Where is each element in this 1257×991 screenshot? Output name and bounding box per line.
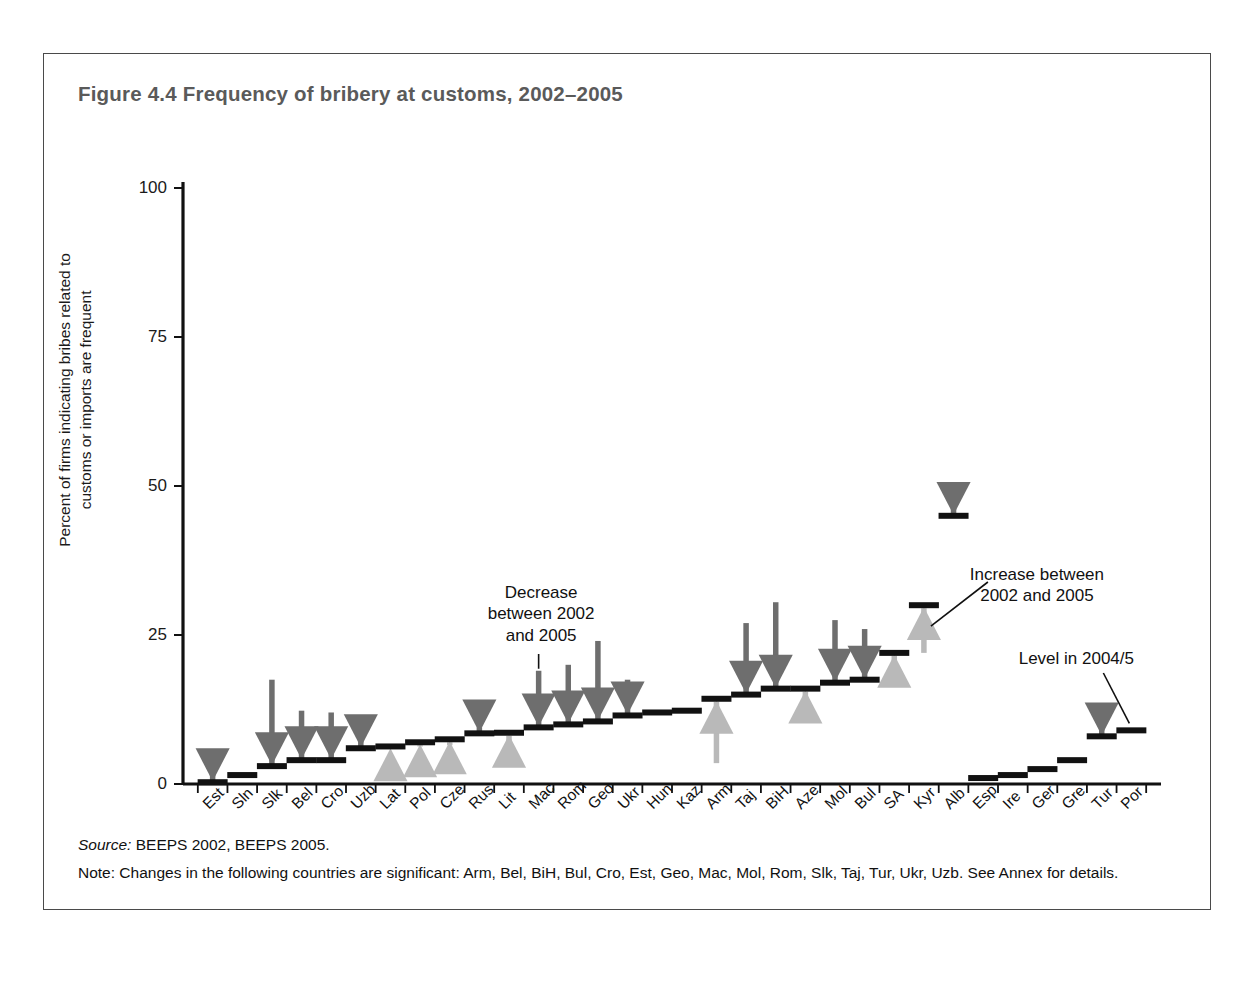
chart-plot-area: Percent of firms indicating bribes relat… — [44, 54, 1212, 844]
source-line: Source: BEEPS 2002, BEEPS 2005. — [78, 836, 330, 854]
source-text: BEEPS 2002, BEEPS 2005. — [131, 836, 329, 853]
y-tick-label: 0 — [121, 774, 167, 794]
note-line: Note: Changes in the following countries… — [78, 864, 1118, 882]
figure-frame: Figure 4.4 Frequency of bribery at custo… — [43, 53, 1211, 910]
y-tick-label: 75 — [121, 327, 167, 347]
annotation-decrease: Decrease between 2002 and 2005 — [469, 582, 614, 646]
y-tick-label: 25 — [121, 625, 167, 645]
annotation-level: Level in 2004/5 — [1001, 648, 1151, 669]
source-label: Source: — [78, 836, 131, 853]
y-axis-title: Percent of firms indicating bribes relat… — [55, 200, 97, 600]
bribery-frequency-chart — [44, 54, 1212, 844]
figure-page: Figure 4.4 Frequency of bribery at custo… — [0, 0, 1257, 991]
y-tick-label: 50 — [121, 476, 167, 496]
y-tick-label: 100 — [121, 178, 167, 198]
leader-line-level — [1103, 673, 1129, 723]
annotation-increase: Increase between 2002 and 2005 — [942, 564, 1132, 607]
